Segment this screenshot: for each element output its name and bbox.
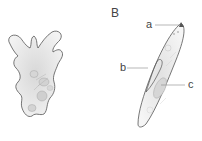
amoeba-illustration — [9, 31, 63, 116]
label-a: a — [146, 19, 152, 30]
diagram-canvas — [0, 0, 202, 141]
panel-b-label: B — [111, 7, 119, 19]
label-b: b — [120, 62, 126, 73]
paramecium-illustration — [138, 22, 184, 127]
label-c: c — [188, 79, 194, 90]
